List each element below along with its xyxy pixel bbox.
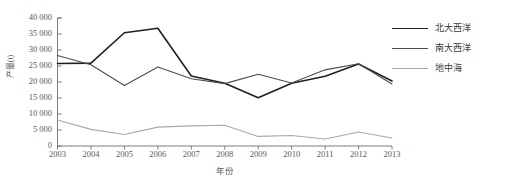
y-tick-label: 10 000: [6, 109, 52, 118]
x-tick-label: 2013: [372, 149, 412, 159]
y-axis-tick-labels: 05 00010 00015 00020 00025 00030 00035 0…: [0, 0, 52, 196]
y-tick-label: 20 000: [6, 77, 52, 86]
y-tick-label: 5 000: [6, 125, 52, 134]
x-axis-title: 年份: [55, 166, 395, 176]
legend-item[interactable]: 地中海: [392, 58, 504, 78]
chart-legend: 北大西洋南大西洋地中海: [392, 18, 504, 78]
y-tick-label: 40 000: [6, 13, 52, 22]
y-tick-label: 25 000: [6, 61, 52, 70]
legend-item[interactable]: 南大西洋: [392, 38, 504, 58]
legend-label: 地中海: [435, 63, 462, 73]
legend-line-swatch: [392, 68, 428, 69]
line-chart-figure: 产量(t) 05 00010 00015 00020 00025 00030 0…: [0, 0, 507, 196]
legend-label: 北大西洋: [435, 23, 471, 33]
y-tick-label: 30 000: [6, 45, 52, 54]
series-line: [58, 28, 393, 97]
legend-line-swatch: [392, 28, 428, 29]
y-tick-label: 15 000: [6, 93, 52, 102]
legend-line-swatch: [392, 48, 428, 49]
x-axis-tick-labels: 2003200420052006200720082009201020112012…: [0, 149, 400, 165]
y-tick-label: 35 000: [6, 29, 52, 38]
legend-label: 南大西洋: [435, 43, 471, 53]
series-line: [58, 120, 393, 139]
legend-item[interactable]: 北大西洋: [392, 18, 504, 38]
